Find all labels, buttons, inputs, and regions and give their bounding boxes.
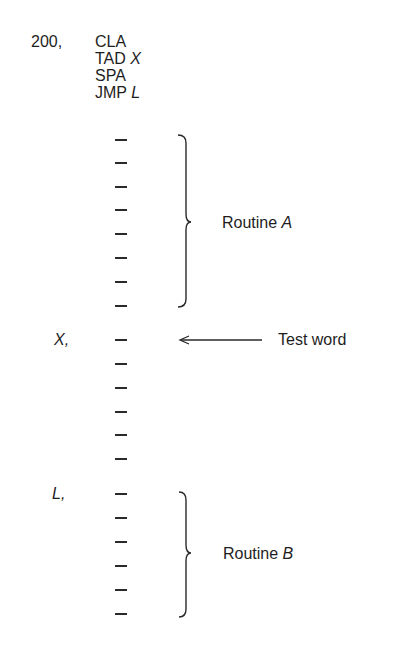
memory-word-dash — [115, 541, 127, 543]
routine-b-address-label: L, — [52, 485, 65, 502]
test-word-address-label: X, — [54, 331, 69, 348]
memory-word-dash — [115, 387, 127, 389]
test-word-dash — [115, 339, 127, 341]
memory-word-dash — [115, 565, 127, 567]
memory-word-dash — [115, 411, 127, 413]
test-word-annotation: Test word — [278, 331, 346, 348]
memory-word-dash — [115, 589, 127, 591]
memory-word-dash — [115, 363, 127, 365]
braces-and-arrow — [0, 0, 395, 653]
routine-b-brace-icon — [179, 492, 191, 617]
memory-word-dash — [115, 434, 127, 436]
left-arrow-icon — [180, 336, 262, 344]
memory-word-dash — [115, 493, 127, 495]
memory-word-dash — [115, 613, 127, 615]
routine-a-label: Routine A — [222, 214, 292, 231]
memory-word-dash — [115, 517, 127, 519]
routine-b-label: Routine B — [223, 545, 293, 562]
memory-word-dash — [115, 458, 127, 460]
routine-a-brace-icon — [178, 135, 191, 307]
